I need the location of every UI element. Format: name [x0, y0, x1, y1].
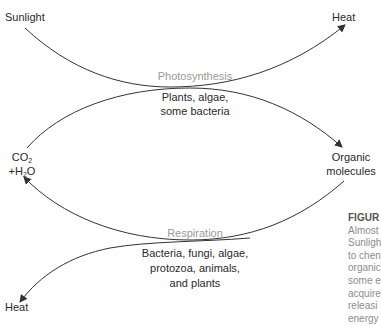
caption-heading: FIGUR	[348, 212, 381, 225]
respiration-organisms-line1: Bacteria, fungi, algae,	[125, 246, 265, 260]
photosynthesis-organisms-line1: Plants, algae,	[135, 90, 255, 104]
figure-caption: FIGUR Almost Sunligh to chen organic som…	[348, 212, 381, 325]
respiration-label: Respiration	[145, 226, 245, 240]
caption-line: Almost	[348, 225, 381, 238]
caption-line: releasi	[348, 300, 381, 313]
heat-top-label: Heat	[332, 10, 355, 24]
heat-bottom-label: Heat	[5, 300, 28, 314]
respiration-organisms-line3: and plants	[125, 276, 265, 290]
caption-line: acquire	[348, 288, 381, 301]
caption-line: energy	[348, 313, 381, 326]
respiration-organisms-line2: protozoa, animals,	[125, 261, 265, 275]
photosynthesis-label: Photosynthesis	[145, 69, 245, 83]
caption-line: organic	[348, 262, 381, 275]
sunlight-label: Sunlight	[5, 10, 45, 24]
caption-line: some e	[348, 275, 381, 288]
photosynthesis-organisms-line2: some bacteria	[135, 104, 255, 118]
h2o-label: +H2O	[6, 164, 38, 178]
co2-label: CO2	[6, 150, 38, 164]
caption-line: to chen	[348, 250, 381, 263]
organic-line2: molecules	[326, 164, 376, 178]
organic-line1: Organic	[326, 150, 376, 164]
caption-line: Sunligh	[348, 237, 381, 250]
